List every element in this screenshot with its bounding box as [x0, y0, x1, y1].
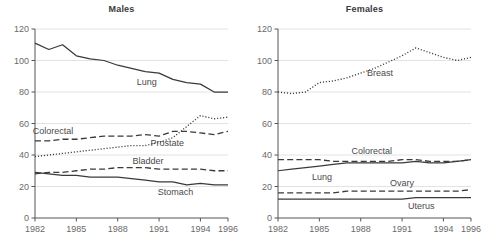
plot-area-females: 020406080100120198219851988199119941996B… — [243, 0, 486, 249]
y-tick-label: 20 — [19, 182, 29, 192]
series-label-prostate: Prostate — [151, 138, 185, 148]
x-tick-label: 1996 — [218, 224, 238, 234]
plot-area-males: 020406080100120198219851988199119941996L… — [0, 0, 243, 249]
series-label-lung: Lung — [312, 172, 332, 182]
x-tick-label: 1994 — [433, 224, 453, 234]
x-tick-label: 1991 — [392, 224, 412, 234]
series-line-colorectal — [278, 160, 471, 162]
y-tick-label: 60 — [19, 119, 29, 129]
chart-panel-females: Females 02040608010012019821985198819911… — [243, 0, 486, 249]
y-tick-label: 40 — [19, 150, 29, 160]
y-tick-label: 0 — [24, 213, 29, 223]
series-label-uterus: Uterus — [408, 201, 435, 211]
x-tick-label: 1982 — [268, 224, 288, 234]
y-tick-label: 60 — [262, 119, 272, 129]
x-tick-label: 1991 — [149, 224, 169, 234]
series-label-bladder: Bladder — [133, 156, 164, 166]
series-line-lung — [35, 43, 228, 92]
y-tick-label: 40 — [262, 150, 272, 160]
series-label-breast: Breast — [367, 68, 394, 78]
x-tick-label: 1985 — [309, 224, 329, 234]
series-line-ovary — [278, 190, 471, 193]
y-tick-label: 120 — [257, 24, 272, 34]
series-label-colorectal: Colorectal — [33, 126, 74, 136]
y-tick-label: 120 — [14, 24, 29, 34]
y-tick-label: 100 — [257, 56, 272, 66]
series-label-lung: Lung — [137, 77, 157, 87]
series-line-uterus — [278, 198, 471, 200]
series-label-stomach: Stomach — [158, 187, 194, 197]
y-tick-label: 20 — [262, 182, 272, 192]
x-tick-label: 1982 — [25, 224, 45, 234]
y-tick-label: 80 — [19, 87, 29, 97]
series-label-colorectal: Colorectal — [351, 146, 392, 156]
x-tick-label: 1985 — [66, 224, 86, 234]
y-tick-label: 0 — [267, 213, 272, 223]
chart-panel-males: Males 0204060801001201982198519881991199… — [0, 0, 243, 249]
y-tick-label: 80 — [262, 87, 272, 97]
series-line-stomach — [35, 172, 228, 185]
x-tick-label: 1994 — [190, 224, 210, 234]
series-line-bladder — [35, 168, 228, 174]
x-tick-label: 1988 — [108, 224, 128, 234]
x-tick-label: 1996 — [461, 224, 481, 234]
y-tick-label: 100 — [14, 56, 29, 66]
x-tick-label: 1988 — [351, 224, 371, 234]
cancer-incidence-figure: Males 0204060801001201982198519881991199… — [0, 0, 486, 249]
series-label-ovary: Ovary — [390, 178, 415, 188]
